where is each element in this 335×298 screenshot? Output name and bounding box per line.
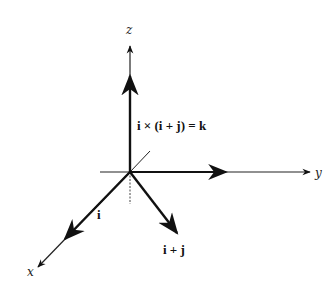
negative-x-stub <box>130 151 150 172</box>
y-axis-label: y <box>314 166 322 180</box>
vector-i <box>65 172 130 239</box>
label-cross-product: i × (i + j) = k <box>137 118 207 133</box>
x-axis-label: x <box>27 265 34 279</box>
z-axis-label: z <box>125 23 133 37</box>
label-i-plus-j: i + j <box>163 242 185 257</box>
vector-i-plus-j <box>130 172 177 233</box>
label-i: i <box>97 207 101 222</box>
cross-product-diagram: z y x i i + j i × (i + j) = k <box>0 0 335 298</box>
